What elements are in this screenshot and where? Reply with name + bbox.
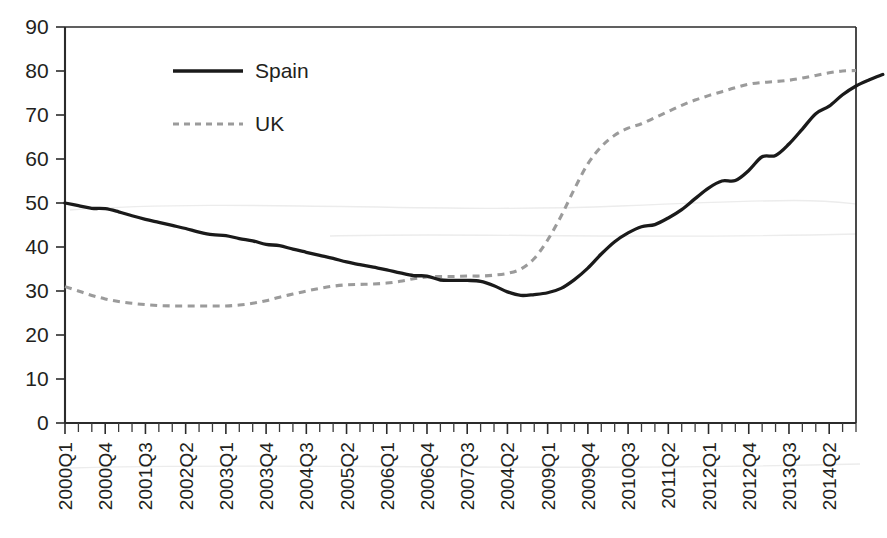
chart-canvas: 0102030405060708090 2000Q12000Q42001Q320… bbox=[0, 0, 887, 538]
y-tick-label: 20 bbox=[25, 323, 49, 346]
x-tick-label: 2009Q4 bbox=[578, 442, 599, 511]
x-tick-label: 2009Q1 bbox=[538, 442, 559, 510]
x-tick-label: 2001Q3 bbox=[135, 442, 156, 510]
x-tick-label: 2006Q1 bbox=[377, 442, 398, 510]
y-tick-label: 10 bbox=[25, 367, 49, 390]
x-tick-label: 2012Q1 bbox=[699, 442, 720, 510]
legend-label-spain: Spain bbox=[255, 59, 309, 82]
y-tick-label: 40 bbox=[25, 235, 49, 258]
x-tick-label: 2004Q3 bbox=[296, 442, 317, 510]
y-tick-label: 60 bbox=[25, 147, 49, 170]
x-tick-label: 2012Q4 bbox=[739, 442, 760, 511]
x-tick-label: 2002Q2 bbox=[176, 442, 197, 510]
y-tick-label: 30 bbox=[25, 279, 49, 302]
x-tick-label: 2014Q2 bbox=[819, 442, 840, 510]
y-tick-label: 80 bbox=[25, 59, 49, 82]
x-tick-label: 2004Q2 bbox=[497, 442, 518, 510]
y-tick-label: 90 bbox=[25, 15, 49, 38]
y-tick-label: 70 bbox=[25, 103, 49, 126]
x-tick-label: 2013Q3 bbox=[779, 442, 800, 510]
x-tick-label: 2007Q3 bbox=[457, 442, 478, 510]
x-tick-label: 2006Q4 bbox=[417, 442, 438, 511]
x-tick-label: 2005Q2 bbox=[337, 442, 358, 510]
y-tick-label: 0 bbox=[37, 411, 49, 434]
x-tick-label: 2003Q4 bbox=[256, 442, 277, 511]
x-tick-label: 2000Q4 bbox=[95, 442, 116, 511]
x-tick-label: 2003Q1 bbox=[216, 442, 237, 510]
line-chart: 0102030405060708090 2000Q12000Q42001Q320… bbox=[0, 0, 887, 538]
x-tick-label: 2000Q1 bbox=[55, 442, 76, 510]
y-tick-label: 50 bbox=[25, 191, 49, 214]
legend-label-uk: UK bbox=[255, 112, 284, 135]
x-tick-label: 2010Q3 bbox=[618, 442, 639, 510]
x-tick-label: 2011Q2 bbox=[658, 442, 679, 509]
